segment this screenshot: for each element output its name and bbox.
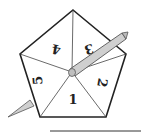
section-label-1: 1 [68,92,77,107]
spinner-svg: 1 2 3 4 5 [0,0,141,132]
section-label-5: 5 [30,75,46,85]
spinner-diagram: 1 2 3 4 5 [0,0,141,132]
